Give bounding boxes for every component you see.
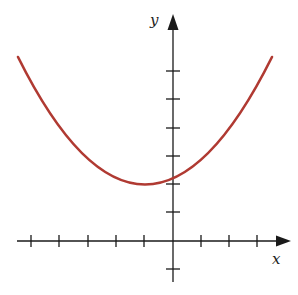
y-axis-arrow-icon — [168, 14, 179, 30]
x-axis-label: x — [272, 250, 281, 268]
parabola-curve — [18, 57, 272, 185]
function-graph: y x — [0, 0, 298, 295]
y-axis-label: y — [149, 11, 159, 29]
x-axis-arrow-icon — [276, 236, 291, 247]
